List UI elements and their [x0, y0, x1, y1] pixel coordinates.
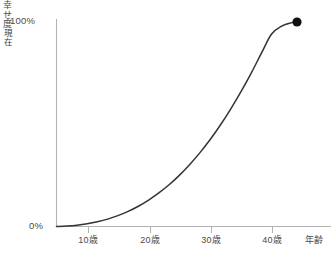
happiness-curve — [57, 22, 298, 227]
y-axis-tick-100: 100% — [10, 16, 35, 26]
chart-plot-area — [0, 0, 336, 263]
x-axis-tick-10: 10歳 — [78, 236, 98, 245]
x-axis-tick-40: 40歳 — [262, 236, 282, 245]
chart-figure: 100% 0% 幸せ度 10歳 20歳 30歳 40歳 年齢 現在 — [0, 0, 336, 263]
x-axis-tick-30: 30歳 — [201, 236, 221, 245]
y-axis-tick-0: 0% — [29, 221, 43, 231]
x-axis-title: 年齢 — [305, 236, 323, 245]
x-axis-tick-20: 20歳 — [140, 236, 160, 245]
x-axis-ticks — [89, 227, 273, 234]
current-point-marker — [292, 17, 301, 26]
